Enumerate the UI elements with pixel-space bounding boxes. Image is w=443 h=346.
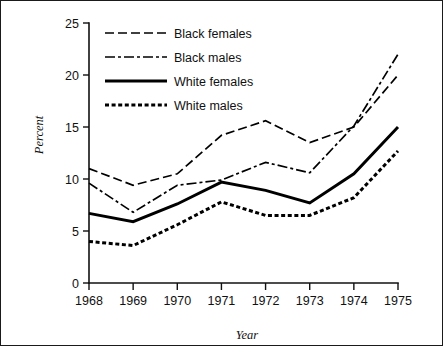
y-tick-label: 5 bbox=[72, 225, 79, 239]
y-tick-label: 10 bbox=[65, 173, 79, 187]
figure-frame: 0510152025 19681969197019711972197319741… bbox=[0, 0, 443, 346]
x-axis-tick-labels: 19681969197019711972197319741975 bbox=[75, 294, 412, 308]
x-tick-label: 1969 bbox=[119, 294, 147, 308]
x-tick-label: 1974 bbox=[340, 294, 368, 308]
series-line-black-females bbox=[89, 75, 398, 185]
legend-label-white-males: White males bbox=[174, 99, 243, 113]
y-tick-label: 20 bbox=[65, 69, 79, 83]
legend-label-white-females: White females bbox=[174, 75, 253, 89]
x-axis-ticks bbox=[89, 283, 398, 290]
x-tick-label: 1973 bbox=[296, 294, 324, 308]
chart-legend: Black femalesBlack malesWhite femalesWhi… bbox=[105, 27, 253, 113]
series-line-white-males bbox=[89, 151, 398, 246]
y-tick-label: 15 bbox=[65, 121, 79, 135]
y-axis-title: Percent bbox=[32, 115, 46, 155]
legend-label-black-females: Black females bbox=[174, 27, 252, 41]
x-tick-label: 1968 bbox=[75, 294, 103, 308]
y-tick-label: 0 bbox=[72, 277, 79, 291]
x-tick-label: 1971 bbox=[208, 294, 236, 308]
x-axis-title: Year bbox=[236, 328, 259, 342]
x-tick-label: 1972 bbox=[252, 294, 280, 308]
y-tick-label: 25 bbox=[65, 17, 79, 31]
y-axis-ticks bbox=[83, 23, 89, 283]
x-tick-label: 1970 bbox=[163, 294, 191, 308]
line-chart: 0510152025 19681969197019711972197319741… bbox=[1, 1, 443, 346]
legend-label-black-males: Black males bbox=[174, 51, 241, 65]
y-axis-tick-labels: 0510152025 bbox=[65, 17, 79, 291]
x-tick-label: 1975 bbox=[384, 294, 412, 308]
